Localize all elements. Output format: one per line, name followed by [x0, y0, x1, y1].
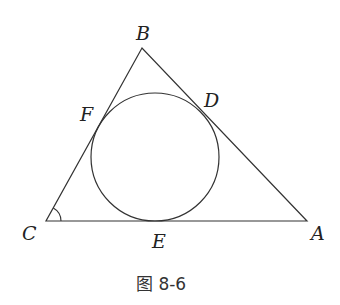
label-e: E: [151, 230, 166, 252]
label-f: F: [79, 103, 94, 125]
geometry-figure: B D F C E A 图 8-6: [0, 0, 340, 305]
label-b: B: [135, 22, 150, 44]
label-d: D: [203, 89, 219, 111]
label-a: A: [309, 222, 325, 244]
angle-c-mark: [53, 208, 61, 221]
incircle: [91, 93, 219, 221]
figure-caption: 图 8-6: [136, 274, 186, 294]
triangle-abc: [46, 48, 307, 221]
label-c: C: [22, 222, 37, 244]
